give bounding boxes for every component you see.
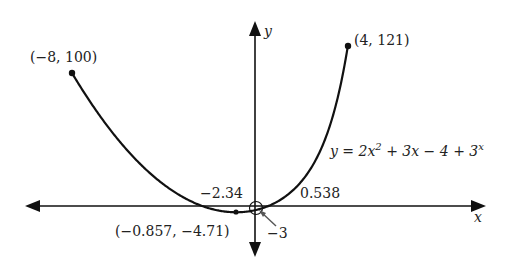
endpoint-right-marker bbox=[345, 43, 351, 49]
equation-label: y = 2x2 + 3x − 4 + 3x bbox=[329, 141, 484, 159]
endpoint-left-label: (−8, 100) bbox=[30, 49, 97, 65]
y-axis-down-arrow-icon bbox=[249, 242, 261, 257]
x-intercept-right-label: 0.538 bbox=[300, 185, 340, 201]
minimum-label: (−0.857, −4.71) bbox=[115, 223, 230, 239]
y-axis-label: y bbox=[263, 23, 273, 39]
endpoint-left-marker bbox=[69, 70, 75, 76]
endpoint-right-label: (4, 121) bbox=[354, 32, 409, 48]
minimum-point-marker bbox=[233, 209, 238, 214]
y-axis bbox=[249, 21, 261, 257]
x-axis-left-arrow-icon bbox=[25, 200, 40, 212]
function-graph: x y (−8, 100) (4, 121) (−0.857, −4.71) −… bbox=[0, 0, 527, 269]
x-axis-label: x bbox=[474, 209, 482, 225]
y-axis-up-arrow-icon bbox=[249, 21, 261, 36]
x-intercept-left-label: −2.34 bbox=[200, 185, 243, 201]
y-intercept-label: −3 bbox=[267, 225, 288, 241]
